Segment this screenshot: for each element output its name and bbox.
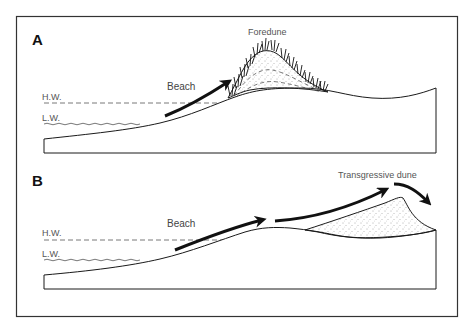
foredune-label: Foredune [248, 27, 287, 37]
transgressive-dune-label: Transgressive dune [338, 170, 417, 180]
transgressive-dune-body [305, 197, 436, 238]
panel-a: A H.W. L.W. [32, 27, 436, 153]
low-water-line-b [44, 259, 140, 261]
panel-letter-b: B [32, 172, 43, 189]
dune-diagram: A H.W. L.W. [0, 0, 473, 333]
high-water-label-a: H.W. [42, 92, 62, 102]
high-water-label-b: H.W. [42, 228, 62, 238]
low-water-line-a [44, 123, 140, 125]
low-water-label-a: L.W. [42, 113, 60, 123]
beach-label-a: Beach [167, 81, 195, 92]
beach-label-b: Beach [167, 218, 195, 229]
panel-letter-a: A [32, 31, 43, 48]
low-water-label-b: L.W. [42, 249, 60, 259]
panel-b: B H.W. L.W. Beach Transgressive dune [32, 170, 436, 289]
ground-profile-a [44, 88, 436, 153]
